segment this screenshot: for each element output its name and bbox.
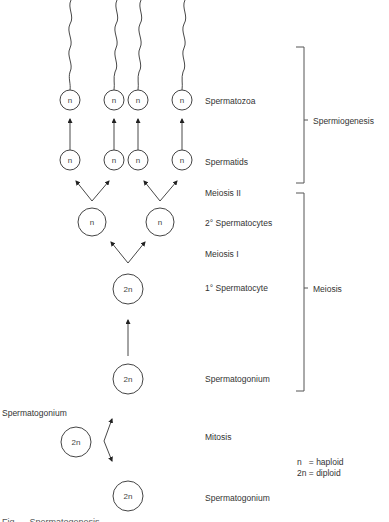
arrow-diagonal-icon — [128, 242, 145, 263]
label-spermatozoa: Spermatozoa — [205, 96, 256, 106]
label-spermatogonium-bottom: Spermatogonium — [205, 493, 270, 503]
spermatogenesis-diagram: n n n n n n n n n n — [0, 0, 389, 522]
cell-ploidy: n — [136, 156, 140, 165]
cell-ploidy: 2n — [72, 438, 81, 447]
spermatozoa-cells: n n n n — [60, 90, 192, 110]
label-spermatogonium-left: Spermatogonium — [2, 408, 67, 418]
cell-ploidy: n — [68, 96, 72, 105]
cell-ploidy: n — [112, 156, 116, 165]
arrow-diagonal-icon — [92, 181, 109, 201]
label-primary-spermatocyte: 1° Spermatocyte — [205, 283, 268, 293]
cell-ploidy: 2n — [124, 285, 133, 294]
cell-ploidy: n — [158, 218, 162, 227]
figure-caption: Fig. ... Spermatogenesis — [2, 515, 100, 522]
spermatid-cells: n n n n — [60, 150, 192, 170]
meiosis-ii-arrows — [76, 181, 177, 201]
spermiogenesis-arrows — [70, 119, 182, 150]
arrow-diagonal-icon — [76, 181, 92, 201]
cell-ploidy: 2n — [124, 375, 133, 384]
mitosis-arrows — [104, 419, 112, 461]
arrow-diagonal-icon — [160, 181, 177, 201]
legend-haploid: n = haploid — [297, 457, 344, 467]
arrow-diagonal-icon — [111, 242, 128, 263]
cell-ploidy: n — [136, 96, 140, 105]
cell-ploidy: n — [90, 218, 94, 227]
cell-ploidy: n — [112, 96, 116, 105]
label-spermatogonium-upper: Spermatogonium — [205, 374, 270, 384]
cell-ploidy: n — [68, 156, 72, 165]
ploidy-legend: n = haploid 2n = diploid — [297, 457, 344, 478]
legend-diploid: 2n = diploid — [297, 468, 341, 478]
spermiogenesis-bracket: Spermiogenesis — [296, 47, 374, 183]
flagellum-2 — [114, 0, 118, 90]
label-meiosis: Meiosis — [313, 284, 342, 294]
flagellum-1 — [69, 0, 72, 90]
label-meiosis-i: Meiosis I — [205, 249, 239, 259]
label-meiosis-ii: Meiosis II — [205, 188, 241, 198]
label-spermiogenesis: Spermiogenesis — [313, 116, 374, 126]
label-secondary-spermatocytes: 2° Spermatocytes — [205, 218, 272, 228]
secondary-spermatocyte-cells: n n — [78, 208, 174, 236]
label-mitosis: Mitosis — [205, 432, 231, 442]
meiosis-bracket: Meiosis — [296, 193, 342, 391]
cell-ploidy: n — [180, 96, 184, 105]
arrow-diagonal-icon — [104, 441, 112, 461]
label-spermatids: Spermatids — [205, 157, 248, 167]
flagellum-4 — [182, 0, 186, 90]
arrow-diagonal-icon — [144, 181, 160, 201]
cell-ploidy: n — [180, 156, 184, 165]
cell-ploidy: 2n — [124, 492, 133, 501]
flagellum-3 — [138, 0, 142, 90]
arrow-diagonal-icon — [104, 419, 112, 441]
flagella — [69, 0, 186, 90]
meiosis-i-arrows — [111, 242, 145, 263]
